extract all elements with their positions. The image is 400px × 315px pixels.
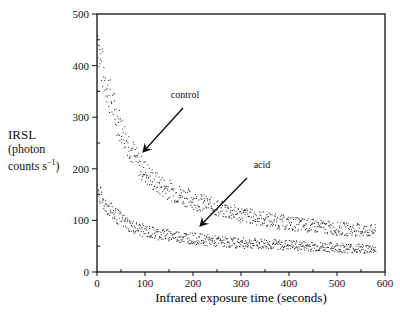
x-axis-label: Infrared exposure time (seconds): [155, 290, 326, 305]
svg-text:600: 600: [377, 277, 394, 289]
svg-text:100: 100: [137, 277, 154, 289]
svg-text:acid: acid: [254, 159, 271, 170]
svg-text:control: control: [171, 89, 200, 100]
svg-text:200: 200: [73, 163, 90, 175]
svg-text:300: 300: [73, 111, 90, 123]
annotation-control: control: [143, 89, 199, 152]
svg-text:0: 0: [94, 277, 100, 289]
svg-text:400: 400: [281, 277, 298, 289]
irsl-scatter-chart: 0100200300400500 0100200300400500600 con…: [0, 0, 400, 315]
svg-text:500: 500: [73, 8, 90, 20]
svg-text:500: 500: [329, 277, 346, 289]
svg-text:400: 400: [73, 60, 90, 72]
annotation-acid: acid: [200, 159, 270, 226]
data-points: [97, 35, 376, 254]
series-control: [97, 35, 376, 237]
y-axis-label-line2: (photon: [8, 142, 60, 156]
annotations: controlacid: [143, 89, 270, 226]
svg-text:100: 100: [73, 214, 90, 226]
svg-text:300: 300: [233, 277, 250, 289]
svg-text:200: 200: [185, 277, 202, 289]
y-axis-label-line3: counts s−1): [8, 156, 60, 173]
y-axis: 0100200300400500: [73, 8, 101, 278]
svg-text:0: 0: [84, 266, 90, 278]
y-axis-label: IRSL (photon counts s−1): [8, 128, 60, 173]
y-axis-label-line1: IRSL: [8, 128, 60, 142]
